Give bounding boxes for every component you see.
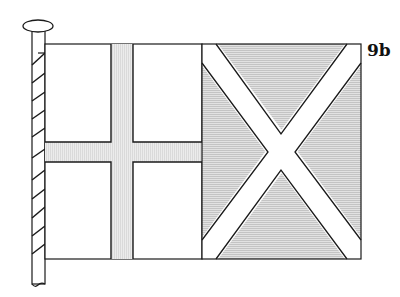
- figure-label: 9b: [367, 40, 391, 60]
- flag-diagram: [0, 0, 400, 297]
- pole-finial: [23, 20, 53, 32]
- flag-left-half: [45, 44, 202, 259]
- cross-horizontal-bar: [45, 142, 202, 162]
- flag-right-half: [202, 44, 361, 259]
